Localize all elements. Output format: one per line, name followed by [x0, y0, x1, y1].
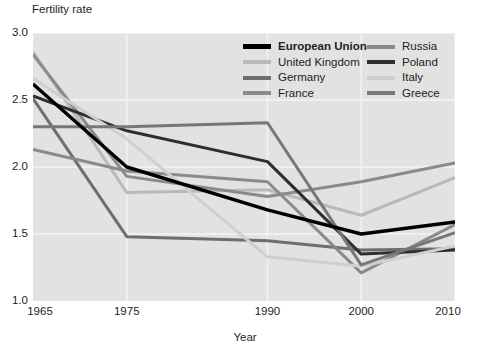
- legend-column: European UnionUnited KingdomGermanyFranc…: [243, 39, 367, 101]
- legend-item-germany[interactable]: Germany: [243, 70, 367, 86]
- legend-item-russia[interactable]: Russia: [367, 39, 455, 55]
- x-tick-label: 2010: [435, 305, 461, 317]
- legend-label: Italy: [402, 72, 423, 84]
- legend-label: Germany: [278, 72, 325, 84]
- x-tick-label: 1975: [114, 305, 140, 317]
- legend-item-italy[interactable]: Italy: [367, 70, 455, 86]
- legend-label: Greece: [402, 88, 440, 100]
- legend-label: Poland: [402, 57, 438, 69]
- legend-item-european-union[interactable]: European Union: [243, 39, 367, 55]
- y-tick-label: 2.5: [0, 93, 28, 105]
- legend-column: RussiaPolandItalyGreece: [367, 39, 455, 101]
- series-line-italy: [33, 79, 455, 267]
- legend-swatch-icon: [243, 44, 271, 49]
- legend-label: France: [278, 88, 314, 100]
- x-axis-title: Year: [0, 331, 490, 343]
- legend-swatch-icon: [367, 45, 395, 49]
- legend-label: Russia: [402, 41, 437, 53]
- legend-swatch-icon: [367, 76, 395, 80]
- y-axis-title: Fertility rate: [32, 3, 92, 15]
- x-tick-label: 1990: [255, 305, 281, 317]
- fertility-rate-line-chart: Fertility rate 1.01.52.02.53.0 196519751…: [0, 0, 490, 354]
- y-tick-label: 1.5: [0, 227, 28, 239]
- y-tick-label: 3.0: [0, 26, 28, 38]
- x-tick-label: 2000: [348, 305, 374, 317]
- x-tick-label: 1965: [27, 305, 53, 317]
- legend-swatch-icon: [243, 91, 271, 95]
- legend-item-france[interactable]: France: [243, 86, 367, 102]
- legend-swatch-icon: [243, 60, 271, 64]
- legend-label: United Kingdom: [278, 57, 360, 69]
- series-line-european-union: [33, 84, 455, 234]
- legend-swatch-icon: [243, 76, 271, 80]
- legend-swatch-icon: [367, 91, 395, 95]
- legend-swatch-icon: [367, 60, 395, 64]
- y-tick-label: 2.0: [0, 160, 28, 172]
- legend-item-united-kingdom[interactable]: United Kingdom: [243, 55, 367, 71]
- legend: European UnionUnited KingdomGermanyFranc…: [243, 33, 455, 105]
- legend-item-poland[interactable]: Poland: [367, 55, 455, 71]
- y-tick-label: 1.0: [0, 294, 28, 306]
- legend-item-greece[interactable]: Greece: [367, 86, 455, 102]
- legend-label: European Union: [278, 41, 367, 53]
